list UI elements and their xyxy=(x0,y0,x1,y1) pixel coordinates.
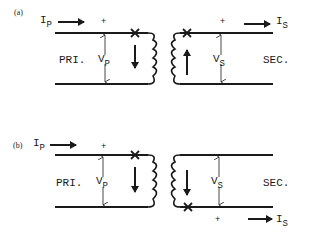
primary-current-label-b: IP xyxy=(33,138,45,150)
panel-b xyxy=(50,145,273,219)
panel-a xyxy=(55,22,273,84)
secondary-label-b: SEC. xyxy=(263,178,289,189)
secondary-plus-a: + xyxy=(220,16,225,26)
primary-coil-b xyxy=(148,155,157,207)
secondary-voltage-label-a: VS xyxy=(213,54,225,66)
primary-current-label-a: IP xyxy=(40,15,52,27)
primary-label-a: PRI. xyxy=(59,55,85,66)
primary-voltage-label-a: VP xyxy=(98,54,110,66)
transformer-diagram xyxy=(0,0,309,243)
secondary-current-label-b: IS xyxy=(276,214,288,226)
primary-label-b: PRI. xyxy=(56,178,82,189)
primary-voltage-label-b: VP xyxy=(96,176,108,188)
primary-plus-b: + xyxy=(101,141,106,151)
primary-plus-a: + xyxy=(101,16,106,26)
secondary-coil-a xyxy=(172,33,181,84)
secondary-current-label-a: IS xyxy=(276,16,288,28)
panel-tag-b: (b) xyxy=(13,141,22,150)
secondary-coil-b xyxy=(172,155,181,207)
secondary-voltage-label-b: VS xyxy=(211,176,223,188)
secondary-plus-b: + xyxy=(215,214,220,224)
secondary-label-a: SEC. xyxy=(263,55,289,66)
panel-tag-a: (a) xyxy=(14,8,23,17)
primary-coil-a xyxy=(148,33,157,84)
